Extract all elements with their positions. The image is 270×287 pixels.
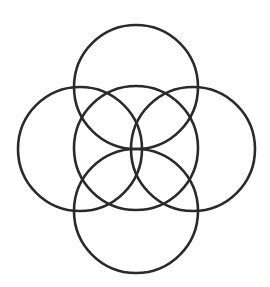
five-circle-diagram [0,0,270,287]
background [0,0,270,287]
